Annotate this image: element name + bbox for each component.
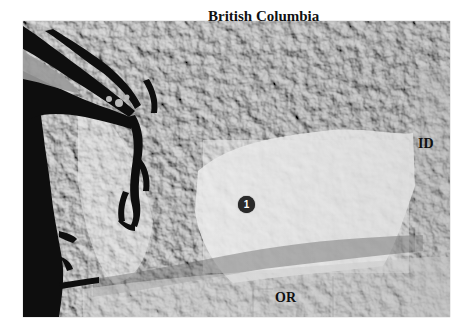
label-idaho: ID: [418, 136, 434, 152]
relief-map: [23, 21, 450, 317]
label-oregon: OR: [275, 290, 296, 306]
map-marker-1[interactable]: 1: [238, 196, 255, 213]
terrain-layer: [23, 21, 450, 317]
label-british-columbia: British Columbia: [208, 8, 319, 25]
marker-number: 1: [244, 199, 250, 210]
